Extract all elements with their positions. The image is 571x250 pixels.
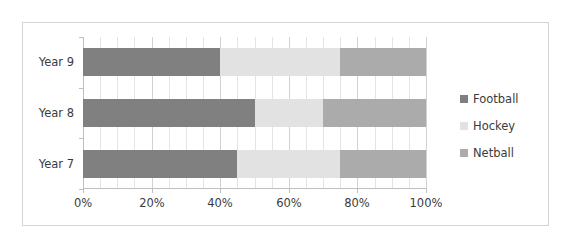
- gridline-major: [426, 37, 427, 189]
- x-axis-tick-label: 60%: [276, 196, 302, 210]
- bar-row: Year 9: [83, 48, 426, 76]
- y-axis-tick: [79, 37, 83, 38]
- x-axis-tick: [426, 189, 427, 193]
- x-axis-tick: [83, 189, 84, 193]
- category-label: Year 9: [4, 48, 74, 76]
- x-axis-tick-label: 100%: [410, 196, 443, 210]
- legend-swatch-icon: [460, 122, 468, 130]
- chart-frame: Year 9Year 8Year 7 0%20%40%60%80%100% Fo…: [22, 22, 549, 226]
- bar-segment-netball: [323, 99, 426, 127]
- y-axis-tick: [79, 189, 83, 190]
- plot-area: Year 9Year 8Year 7 0%20%40%60%80%100%: [83, 37, 426, 189]
- category-label: Year 8: [4, 99, 74, 127]
- legend-label: Hockey: [473, 119, 515, 133]
- x-axis-tick-label: 80%: [344, 196, 370, 210]
- x-axis-tick-label: 20%: [139, 196, 165, 210]
- bar-segment-hockey: [255, 99, 324, 127]
- y-axis-tick: [79, 138, 83, 139]
- bar-segment-hockey: [237, 150, 340, 178]
- legend-label: Football: [473, 92, 519, 106]
- legend-item[interactable]: Netball: [460, 139, 550, 166]
- legend-swatch-icon: [460, 95, 468, 103]
- legend-label: Netball: [473, 146, 514, 160]
- y-axis-tick: [79, 88, 83, 89]
- legend-swatch-icon: [460, 149, 468, 157]
- bar-segment-netball: [340, 150, 426, 178]
- x-axis-tick: [220, 189, 221, 193]
- bar-segment-football: [83, 99, 255, 127]
- x-axis-tick: [357, 189, 358, 193]
- bar-segment-netball: [340, 48, 426, 76]
- x-axis-tick: [289, 189, 290, 193]
- x-axis-tick: [152, 189, 153, 193]
- bar-segment-football: [83, 150, 237, 178]
- bar-segment-football: [83, 48, 220, 76]
- bar-row: Year 8: [83, 99, 426, 127]
- x-axis-tick-label: 40%: [207, 196, 233, 210]
- legend-item[interactable]: Hockey: [460, 112, 550, 139]
- x-axis-line: [83, 188, 426, 189]
- x-axis-tick-label: 0%: [74, 196, 92, 210]
- legend-item[interactable]: Football: [460, 85, 550, 112]
- chart-legend: FootballHockeyNetball: [460, 85, 550, 166]
- bar-row: Year 7: [83, 150, 426, 178]
- bar-segment-hockey: [220, 48, 340, 76]
- category-label: Year 7: [4, 150, 74, 178]
